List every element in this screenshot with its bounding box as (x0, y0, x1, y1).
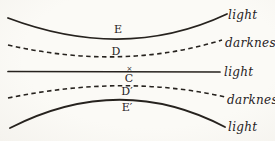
lower-light-curve (10, 100, 225, 128)
point-label-D: D (112, 45, 121, 58)
interference-diagram: E D × C D′ E′ light darkness light darkn… (0, 0, 275, 141)
point-label-D-prime: D′ (121, 85, 133, 98)
point-label-E: E (114, 23, 122, 36)
annotation-darkness-lower: darkness (227, 93, 275, 107)
annotation-light-bottom: light (228, 120, 257, 134)
lower-darkness-curve (8, 86, 225, 98)
central-light-line (8, 72, 220, 73)
point-label-C: C (125, 72, 133, 85)
diagram-canvas: E D × C D′ E′ light darkness light darkn… (0, 0, 275, 141)
point-label-E-prime: E′ (122, 101, 133, 114)
annotation-light-top: light (228, 8, 257, 22)
annotation-darkness-upper: darkness (225, 36, 275, 50)
annotation-light-middle: light (224, 65, 253, 79)
